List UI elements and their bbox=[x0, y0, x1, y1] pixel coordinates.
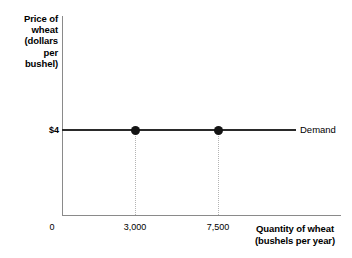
data-point-7500 bbox=[214, 126, 223, 135]
y-axis-title-line-1: Price of bbox=[4, 13, 58, 24]
demand-curve-chart: Price of wheat (dollars per bushel) $4 D… bbox=[0, 0, 352, 258]
y-tick-label-4: $4 bbox=[38, 125, 59, 135]
data-point-3000 bbox=[131, 126, 140, 135]
dropline-3000 bbox=[135, 131, 137, 215]
x-tick-label-3000: 3,000 bbox=[110, 222, 160, 232]
x-axis-line bbox=[62, 215, 341, 216]
demand-curve-line bbox=[62, 129, 296, 131]
x-axis-title-line-1: Quantity of wheat bbox=[240, 223, 350, 235]
x-axis-title-line-2: (bushels per year) bbox=[240, 235, 350, 247]
dropline-7500 bbox=[218, 131, 220, 215]
y-axis-title-line-4: per bbox=[4, 47, 58, 58]
y-axis-title-line-3: (dollars bbox=[4, 35, 58, 46]
x-tick-label-7500: 7,500 bbox=[193, 222, 243, 232]
x-axis-title: Quantity of wheat (bushels per year) bbox=[240, 223, 350, 246]
y-axis-title: Price of wheat (dollars per bushel) bbox=[4, 13, 58, 69]
y-axis-title-line-2: wheat bbox=[4, 24, 58, 35]
y-axis-line bbox=[62, 16, 63, 216]
y-axis-title-line-5: bushel) bbox=[4, 58, 58, 69]
x-tick-label-0: 0 bbox=[42, 222, 62, 232]
demand-series-label: Demand bbox=[300, 124, 336, 135]
